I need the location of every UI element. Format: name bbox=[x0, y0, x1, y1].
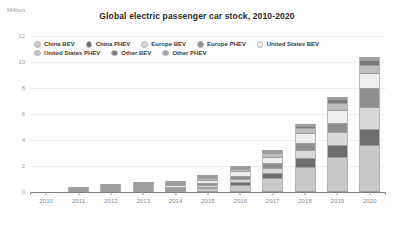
stacked-bar[interactable] bbox=[165, 181, 186, 192]
bar-segment[interactable] bbox=[69, 190, 88, 191]
stacked-bar[interactable] bbox=[359, 57, 380, 192]
bar-segment[interactable] bbox=[360, 129, 379, 145]
bar-segment[interactable] bbox=[198, 188, 217, 191]
x-axis-tick-label: 2018 bbox=[289, 198, 321, 204]
legend-item-label: Other BEV bbox=[121, 50, 151, 56]
x-axis-tick-mark bbox=[369, 192, 370, 195]
y-axis-tick-label: 12 bbox=[18, 33, 25, 39]
bar-slot bbox=[30, 36, 62, 192]
bar-segment[interactable] bbox=[328, 110, 347, 123]
bar-slot bbox=[159, 36, 191, 192]
stacked-bar[interactable] bbox=[197, 175, 218, 192]
x-axis-tick-mark bbox=[110, 192, 111, 195]
legend-item[interactable]: Europe BEV bbox=[141, 41, 186, 48]
x-axis-tick-label: 2017 bbox=[257, 198, 289, 204]
bar-segment[interactable] bbox=[296, 158, 315, 167]
x-axis-tick-label: 2019 bbox=[321, 198, 353, 204]
bar-slot bbox=[192, 36, 224, 192]
x-axis-tick-label: 2015 bbox=[192, 198, 224, 204]
bar-slot bbox=[127, 36, 159, 192]
x-axis-tick-mark bbox=[207, 192, 208, 195]
bar-segment[interactable] bbox=[328, 103, 347, 110]
bar-segment[interactable] bbox=[360, 65, 379, 73]
legend-item[interactable]: Europe PHEV bbox=[197, 41, 246, 48]
bar-segment[interactable] bbox=[296, 150, 315, 158]
x-axis-slot: 2018 bbox=[289, 192, 321, 212]
bar-slot bbox=[62, 36, 94, 192]
bar-segment[interactable] bbox=[166, 190, 185, 191]
bar-slot bbox=[354, 36, 386, 192]
legend-item[interactable]: United States BEV bbox=[257, 41, 319, 48]
x-axis-tick-mark bbox=[78, 192, 79, 195]
x-axis-tick-label: 2013 bbox=[127, 198, 159, 204]
x-axis-slot: 2015 bbox=[192, 192, 224, 212]
x-axis-tick-mark bbox=[175, 192, 176, 195]
legend-item[interactable]: China PHEV bbox=[86, 41, 131, 48]
x-axis-tick-mark bbox=[272, 192, 273, 195]
legend-swatch-icon bbox=[111, 50, 118, 57]
stacked-bar[interactable] bbox=[100, 184, 121, 192]
stacked-bar[interactable] bbox=[327, 97, 348, 192]
stacked-bar[interactable] bbox=[262, 150, 283, 192]
y-axis-tick-label: 10 bbox=[18, 59, 25, 65]
bar-series-container bbox=[30, 36, 386, 192]
bar-segment[interactable] bbox=[296, 133, 315, 143]
x-axis-tick-mark bbox=[240, 192, 241, 195]
x-axis-slot: 2010 bbox=[30, 192, 62, 212]
bar-segment[interactable] bbox=[296, 167, 315, 191]
y-axis-tick-label: 2 bbox=[22, 163, 25, 169]
stacked-bar[interactable] bbox=[133, 182, 154, 192]
x-axis-tick-mark bbox=[337, 192, 338, 195]
x-axis-tick-label: 2011 bbox=[62, 198, 94, 204]
bar-segment[interactable] bbox=[360, 145, 379, 191]
x-axis-slot: 2019 bbox=[321, 192, 353, 212]
x-axis-slot: 2020 bbox=[354, 192, 386, 212]
x-axis-slot: 2014 bbox=[159, 192, 191, 212]
x-axis-slot: 2017 bbox=[257, 192, 289, 212]
legend-item[interactable]: Other BEV bbox=[111, 50, 151, 57]
chart-legend: China BEVChina PHEVEurope BEVEurope PHEV… bbox=[34, 41, 384, 56]
stacked-bar[interactable] bbox=[230, 166, 251, 192]
x-axis-tick-mark bbox=[46, 192, 47, 195]
legend-swatch-icon bbox=[257, 41, 264, 48]
plot-area: 024681012 bbox=[30, 36, 386, 192]
bar-slot bbox=[95, 36, 127, 192]
bar-segment[interactable] bbox=[328, 145, 347, 158]
y-axis-tick-label: 0 bbox=[22, 189, 25, 195]
x-axis-tick-label: 2020 bbox=[354, 198, 386, 204]
bar-segment[interactable] bbox=[328, 132, 347, 144]
bar-segment[interactable] bbox=[101, 190, 120, 191]
x-axis-tick-label: 2010 bbox=[30, 198, 62, 204]
legend-swatch-icon bbox=[197, 41, 204, 48]
bar-segment[interactable] bbox=[360, 73, 379, 88]
bar-segment[interactable] bbox=[263, 178, 282, 191]
y-axis-tick-label: 8 bbox=[22, 85, 25, 91]
legend-item-label: Other PHEV bbox=[172, 50, 206, 56]
x-axis-slot: 2013 bbox=[127, 192, 159, 212]
legend-item[interactable]: China BEV bbox=[34, 41, 75, 48]
legend-swatch-icon bbox=[34, 41, 41, 48]
x-axis-tick-label: 2012 bbox=[95, 198, 127, 204]
legend-item[interactable]: United States PHEV bbox=[34, 50, 100, 57]
legend-item-label: United States PHEV bbox=[44, 50, 100, 56]
bar-segment[interactable] bbox=[134, 190, 153, 191]
legend-item-label: United States BEV bbox=[267, 41, 319, 47]
x-axis-tick-label: 2016 bbox=[224, 198, 256, 204]
bar-segment[interactable] bbox=[328, 157, 347, 191]
x-axis-slot: 2012 bbox=[95, 192, 127, 212]
bar-segment[interactable] bbox=[231, 185, 250, 191]
legend-swatch-icon bbox=[162, 50, 169, 57]
stacked-bar[interactable] bbox=[295, 124, 316, 192]
legend-row: China BEVChina PHEVEurope BEVEurope PHEV… bbox=[34, 41, 384, 48]
legend-item[interactable]: Other PHEV bbox=[162, 50, 206, 57]
x-axis-tick-mark bbox=[305, 192, 306, 195]
chart-canvas: Million Global electric passenger car st… bbox=[0, 0, 394, 225]
x-axis-start-mark bbox=[30, 192, 31, 195]
bar-segment[interactable] bbox=[328, 123, 347, 133]
bar-segment[interactable] bbox=[360, 107, 379, 129]
bar-slot bbox=[321, 36, 353, 192]
x-axis-slot: 2011 bbox=[62, 192, 94, 212]
bar-segment[interactable] bbox=[360, 88, 379, 107]
chart-title: Global electric passenger car stock, 201… bbox=[0, 11, 394, 21]
bar-segment[interactable] bbox=[296, 143, 315, 150]
